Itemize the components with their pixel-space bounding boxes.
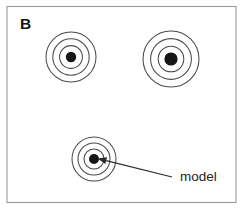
target-center-dot	[164, 52, 177, 65]
panel-label-b: B	[20, 15, 31, 32]
target-center-dot	[66, 52, 76, 62]
figure-panel-b: B model	[0, 0, 245, 212]
target-center-dot	[89, 154, 99, 164]
figure-canvas: B model	[0, 0, 245, 212]
callout-label-model: model	[180, 169, 217, 184]
